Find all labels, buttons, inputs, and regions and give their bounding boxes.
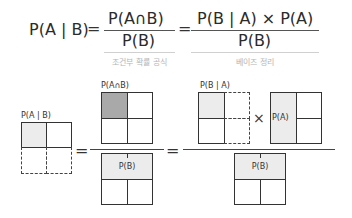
frac2-denominator: P(B) <box>238 33 271 49</box>
pa-label: P(A) <box>272 114 289 122</box>
grid-cell <box>296 92 322 119</box>
tick <box>260 153 261 158</box>
pba-dashed-cell <box>224 118 250 144</box>
right-bottom-label: P(B) <box>234 163 286 171</box>
pba-cell <box>198 118 225 144</box>
frac2-numerator: P(B | A) × P(A) <box>197 11 313 27</box>
grid-cell <box>127 118 153 144</box>
frac1-numerator: P(A∩B) <box>108 11 164 27</box>
right-top-label: P(B | A) <box>200 82 230 90</box>
mid-fraction-line <box>90 149 164 150</box>
left-box <box>21 122 72 174</box>
grid-cell <box>101 118 128 144</box>
right-bottom-box: P(B) <box>234 153 286 205</box>
frac2-caption: 베이즈 정리 <box>191 56 319 67</box>
mid-top-box <box>101 92 153 144</box>
grid-cell <box>127 179 153 205</box>
frac2-caption-rule <box>191 52 319 53</box>
pa-box: P(A) <box>270 92 322 144</box>
pba-box <box>198 92 250 144</box>
left-box-dashed-cell <box>46 147 72 174</box>
formula-lhs: P(A | B) <box>29 22 89 38</box>
mid-bottom-box: P(B) <box>101 153 153 205</box>
grid-cell <box>296 118 322 144</box>
diagram-equals-2: = <box>166 143 179 159</box>
equals-sign: = <box>87 21 100 37</box>
pba-cell-shaded <box>198 92 225 119</box>
left-box-dashed-cell <box>21 147 47 174</box>
grid-cell <box>101 179 128 205</box>
frac1-caption: 조건부 확률 공식 <box>104 56 175 67</box>
grid-cell <box>127 92 153 119</box>
equals-sign-2: = <box>178 21 191 37</box>
grid-cell <box>234 179 261 205</box>
frac1-caption-rule <box>104 52 175 53</box>
tick <box>127 153 128 158</box>
left-box-cell-shaded <box>21 122 47 148</box>
left-box-label: P(A | B) <box>21 112 51 120</box>
right-fraction-line <box>183 149 335 150</box>
left-box-cell <box>46 122 72 148</box>
pba-dashed-cell <box>224 92 250 119</box>
mid-top-label: P(A∩B) <box>101 82 129 90</box>
grid-cell <box>260 179 286 205</box>
frac1-denominator: P(B) <box>122 33 155 49</box>
mid-bottom-label: P(B) <box>101 163 153 171</box>
intersection-cell <box>101 92 128 119</box>
diagram-equals-1: = <box>75 143 88 159</box>
times-sign: × <box>253 111 265 125</box>
